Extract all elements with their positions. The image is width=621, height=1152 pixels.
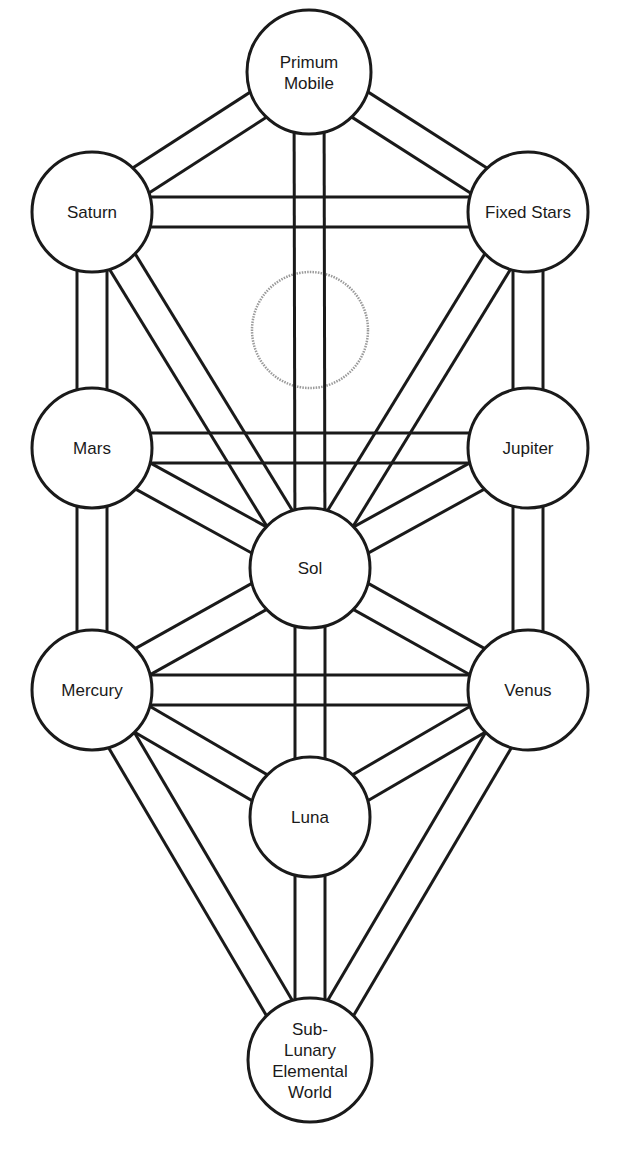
node-fixed-stars: Fixed Stars bbox=[468, 152, 588, 272]
path-edge-line bbox=[324, 72, 325, 568]
path-edge-line bbox=[79, 698, 297, 1068]
node-primum-mobile: PrimumMobile bbox=[247, 10, 371, 134]
path-primum-mobile-to-sol bbox=[294, 72, 325, 568]
node-label: Venus bbox=[504, 681, 551, 700]
node-label: Mercury bbox=[61, 681, 123, 700]
node-label: Primum bbox=[280, 53, 339, 72]
path-saturn-to-fixed-stars bbox=[92, 197, 528, 227]
node-saturn: Saturn bbox=[32, 152, 152, 272]
node-jupiter: Jupiter bbox=[468, 388, 588, 508]
node-label: Fixed Stars bbox=[485, 203, 571, 222]
path-edge-line bbox=[323, 698, 541, 1068]
node-mars: Mars bbox=[32, 388, 152, 508]
node-label: Sol bbox=[298, 559, 323, 578]
node-sol: Sol bbox=[250, 508, 370, 628]
node-label: Mobile bbox=[284, 74, 334, 93]
node-label: Sub- bbox=[292, 1020, 328, 1039]
node-sub-lunary: Sub-LunaryElementalWorld bbox=[248, 998, 372, 1122]
node-circle bbox=[248, 998, 372, 1122]
node-label: Jupiter bbox=[502, 439, 553, 458]
node-mercury: Mercury bbox=[32, 630, 152, 750]
path-edge-line bbox=[294, 72, 295, 568]
node-label: World bbox=[288, 1083, 332, 1102]
node-luna: Luna bbox=[250, 757, 370, 877]
node-label: Luna bbox=[291, 808, 329, 827]
nodes-layer: PrimumMobileSaturnFixed StarsMarsJupiter… bbox=[32, 10, 588, 1122]
node-label: Mars bbox=[73, 439, 111, 458]
tree-of-life-diagram: PrimumMobileSaturnFixed StarsMarsJupiter… bbox=[0, 0, 621, 1152]
node-label: Lunary bbox=[284, 1041, 336, 1060]
node-label: Elemental bbox=[272, 1062, 348, 1081]
node-circle bbox=[247, 10, 371, 134]
node-label: Saturn bbox=[67, 203, 117, 222]
path-mercury-to-venus bbox=[92, 675, 528, 705]
path-edge-line bbox=[297, 204, 515, 560]
hidden-sphere-layer bbox=[252, 272, 368, 388]
path-edge-line bbox=[105, 204, 323, 560]
hidden-sphere-circle bbox=[252, 272, 368, 388]
node-venus: Venus bbox=[468, 630, 588, 750]
path-mars-to-jupiter bbox=[92, 433, 528, 463]
